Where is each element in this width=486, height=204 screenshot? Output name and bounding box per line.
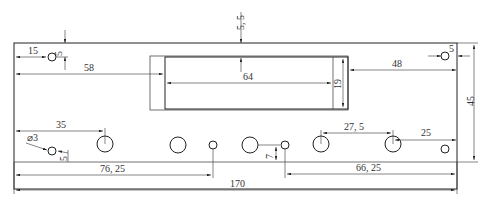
dim-overall-width: 170 bbox=[230, 178, 245, 189]
dim-cutout-top-offset: 5, 5 bbox=[235, 15, 246, 30]
dim-cutout-offset-x: 58 bbox=[84, 62, 94, 73]
panel-drawing: 15 5 58 5, 5 64 19 48 5 45 35 ⌀3 5 27, 5… bbox=[0, 0, 486, 204]
large-hole-3 bbox=[242, 137, 258, 153]
dim-cutout-height: 19 bbox=[332, 79, 343, 89]
small-right-hole bbox=[441, 145, 449, 153]
dim-right-span: 48 bbox=[392, 58, 402, 69]
panel-outline bbox=[14, 43, 457, 189]
dim-overall-height: 45 bbox=[465, 96, 476, 106]
small-left-hole bbox=[48, 147, 56, 155]
holes bbox=[48, 52, 449, 155]
dim-small-hole-y: 5 bbox=[58, 156, 69, 161]
top-right-hole bbox=[441, 52, 449, 60]
dim-right-span-bottom: 66, 25 bbox=[356, 162, 381, 173]
dim-hole-row-y: 7 bbox=[264, 154, 275, 159]
dim-right-large-hole-offset: 25 bbox=[421, 127, 431, 138]
dim-first-large-hole-x: 35 bbox=[56, 119, 66, 130]
dim-small-hole-dia: ⌀3 bbox=[27, 132, 38, 143]
dim-top-hole-y: 5 bbox=[53, 51, 64, 56]
dim-right-hole-x: 5 bbox=[449, 43, 454, 54]
dim-cutout-width: 64 bbox=[243, 71, 253, 82]
large-hole-2 bbox=[170, 137, 186, 153]
small-hole-1 bbox=[209, 141, 217, 149]
dim-top-hole-x: 15 bbox=[28, 45, 38, 56]
small-hole-2 bbox=[281, 141, 289, 149]
dim-hole-pitch: 27, 5 bbox=[344, 121, 364, 132]
dim-left-span: 76, 25 bbox=[100, 163, 125, 174]
